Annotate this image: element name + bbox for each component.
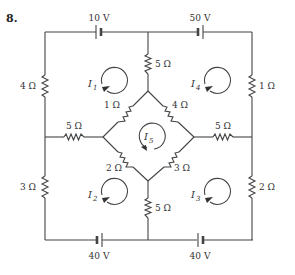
svg-text:5: 5: [149, 137, 154, 145]
battery-bottom-right: [198, 233, 203, 247]
loop-current-i5: I 5: [139, 123, 165, 151]
resistor-left-lower-label: 3 Ω: [20, 182, 36, 192]
resistor-diamond-lower-left-label: 2 Ω: [106, 163, 122, 173]
resistor-diamond-upper-right: [148, 91, 194, 137]
battery-top-right: [198, 25, 203, 39]
resistor-mid-left: [64, 134, 84, 140]
resistor-right-lower: [249, 176, 255, 198]
svg-text:3: 3: [196, 195, 201, 203]
battery-top-right-label: 50 V: [190, 13, 211, 23]
battery-bottom-left-label: 40 V: [89, 251, 110, 261]
svg-text:1: 1: [93, 84, 97, 92]
battery-bottom-left: [97, 233, 102, 247]
resistor-mid-right-label: 5 Ω: [215, 121, 231, 131]
resistor-diamond-upper-left-label: 1 Ω: [104, 100, 120, 110]
battery-top-left: [96, 25, 101, 39]
resistor-center-bottom: [145, 198, 151, 218]
circuit-diagram: 8. 10 V 5: [0, 0, 295, 275]
resistor-mid-left-label: 5 Ω: [66, 121, 82, 131]
resistor-right-lower-label: 2 Ω: [259, 182, 275, 192]
resistor-right-upper-label: 1 Ω: [259, 81, 275, 91]
loop-current-i3: I 3: [190, 178, 230, 204]
resistor-left-upper: [42, 75, 48, 97]
loop-current-i1: I 1: [87, 67, 127, 93]
clockwise-arrow-icon: [205, 86, 213, 92]
clockwise-arrow-icon: [141, 145, 147, 151]
loop-current-i4: I 4: [190, 67, 230, 93]
loop-current-i2: I 2: [87, 178, 127, 204]
problem-number: 8.: [6, 12, 17, 25]
resistor-center-top-label: 5 Ω: [155, 59, 171, 69]
clockwise-arrow-icon: [102, 86, 110, 92]
resistor-left-lower: [42, 176, 48, 198]
battery-bottom-right-label: 40 V: [190, 251, 211, 261]
svg-text:4: 4: [195, 84, 200, 92]
svg-text:2: 2: [92, 195, 98, 203]
clockwise-arrow-icon: [102, 197, 110, 203]
resistor-center-top: [145, 54, 151, 74]
resistor-diamond-upper-right-label: 4 Ω: [172, 100, 188, 110]
resistor-diamond-lower-right: [148, 137, 194, 181]
resistor-right-upper: [249, 75, 255, 97]
clockwise-arrow-icon: [205, 197, 213, 203]
resistor-left-upper-label: 4 Ω: [20, 81, 36, 91]
battery-top-left-label: 10 V: [89, 13, 110, 23]
resistor-mid-right: [213, 134, 233, 140]
resistor-center-bottom-label: 5 Ω: [155, 203, 171, 213]
resistor-diamond-lower-right-label: 3 Ω: [174, 163, 190, 173]
